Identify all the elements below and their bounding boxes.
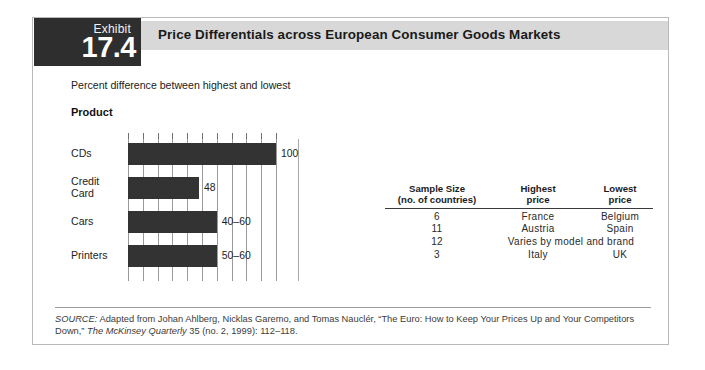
axis-tick-0 bbox=[128, 133, 129, 139]
col-header-highest-price-line1: Highest bbox=[520, 183, 555, 194]
axis-tick-70 bbox=[232, 133, 233, 139]
bar-value-label: 50–60 bbox=[222, 250, 251, 261]
col-header-lowest-price-line1: Lowest bbox=[603, 183, 636, 194]
col-header-sample-size-line2: (no. of countries) bbox=[398, 194, 476, 205]
col-header-lowest-price-line2: price bbox=[609, 194, 632, 205]
source-divider bbox=[55, 307, 651, 308]
axis-tick-10 bbox=[143, 133, 144, 139]
product-axis-label: Product bbox=[71, 106, 113, 118]
bar-value-label: 100 bbox=[281, 148, 298, 159]
category-label: Credit Card bbox=[71, 176, 123, 199]
cell-sample-size: 11 bbox=[385, 222, 489, 235]
col-header-lowest-price: Lowest price bbox=[587, 184, 653, 209]
bar-value-label: 48 bbox=[204, 182, 216, 193]
table-row: 6FranceBelgium bbox=[385, 209, 653, 222]
axis-tick-50 bbox=[202, 133, 203, 139]
cell-highest-price: France bbox=[489, 209, 587, 222]
axis-tick-80 bbox=[246, 133, 247, 139]
table-header-row: Sample Size (no. of countries) Highest p… bbox=[385, 184, 653, 209]
cell-lowest-price: Belgium bbox=[587, 209, 653, 222]
category-label: CDs bbox=[71, 148, 123, 160]
axis-tick-30 bbox=[172, 133, 173, 139]
exhibit-number-block: Exhibit 17.4 bbox=[34, 18, 141, 66]
col-header-sample-size: Sample Size (no. of countries) bbox=[385, 184, 489, 209]
axis-tick-40 bbox=[187, 133, 188, 139]
exhibit-frame: Price Differentials across European Cons… bbox=[32, 17, 669, 345]
source-note: SOURCE: Adapted from Johan Ahlberg, Nick… bbox=[55, 313, 655, 337]
cell-sample-size: 6 bbox=[385, 209, 489, 222]
axis-tick-20 bbox=[158, 133, 159, 139]
axis-tick-100 bbox=[276, 133, 277, 139]
col-header-highest-price-line2: price bbox=[527, 194, 550, 205]
cell-sample-size: 12 bbox=[385, 235, 489, 248]
bar-value-label: 40–60 bbox=[222, 216, 251, 227]
table-row: 3ItalyUK bbox=[385, 248, 653, 261]
bar-printers bbox=[128, 245, 217, 267]
source-label: SOURCE: bbox=[55, 314, 97, 324]
table-body: 6FranceBelgium11AustriaSpain12Varies by … bbox=[385, 209, 653, 261]
cell-lowest-price: UK bbox=[587, 248, 653, 261]
detail-table-element: Sample Size (no. of countries) Highest p… bbox=[385, 184, 653, 260]
gridline-outer bbox=[298, 139, 299, 281]
cell-lowest-price: Spain bbox=[587, 222, 653, 235]
source-tail: 35 (no. 2, 1999): 112–118. bbox=[187, 326, 298, 336]
table-header: Sample Size (no. of countries) Highest p… bbox=[385, 184, 653, 209]
source-journal: The McKinsey Quarterly bbox=[87, 326, 187, 336]
bar-credit-card bbox=[128, 177, 199, 199]
chart-subtitle: Percent difference between highest and l… bbox=[71, 79, 290, 91]
cell-highest-price: Italy bbox=[489, 248, 587, 261]
bar-cars bbox=[128, 211, 217, 233]
bar-chart: 1004840–6050–60 CDsCredit CardCarsPrinte… bbox=[71, 124, 381, 299]
table-row: 12Varies by model and brand bbox=[385, 235, 653, 248]
category-label: Cars bbox=[71, 216, 123, 228]
category-label: Printers bbox=[71, 250, 123, 262]
bar-cds bbox=[128, 143, 276, 165]
detail-table: Sample Size (no. of countries) Highest p… bbox=[385, 184, 653, 260]
exhibit-body: Percent difference between highest and l… bbox=[33, 66, 670, 345]
title-band: Price Differentials across European Cons… bbox=[136, 21, 668, 50]
col-header-highest-price: Highest price bbox=[489, 184, 587, 209]
axis-tick-90 bbox=[261, 133, 262, 139]
table-row: 11AustriaSpain bbox=[385, 222, 653, 235]
exhibit-number: 17.4 bbox=[82, 32, 136, 62]
page-title: Price Differentials across European Cons… bbox=[158, 27, 560, 42]
axis-tick-60 bbox=[217, 133, 218, 139]
cell-highest-price: Austria bbox=[489, 222, 587, 235]
cell-highest-price: Varies by model and brand bbox=[489, 235, 653, 248]
exhibit-header: Price Differentials across European Cons… bbox=[33, 18, 670, 52]
col-header-sample-size-line1: Sample Size bbox=[409, 183, 465, 194]
cell-sample-size: 3 bbox=[385, 248, 489, 261]
gridline-100 bbox=[276, 139, 277, 281]
plot-area: 1004840–6050–60 bbox=[128, 139, 276, 281]
